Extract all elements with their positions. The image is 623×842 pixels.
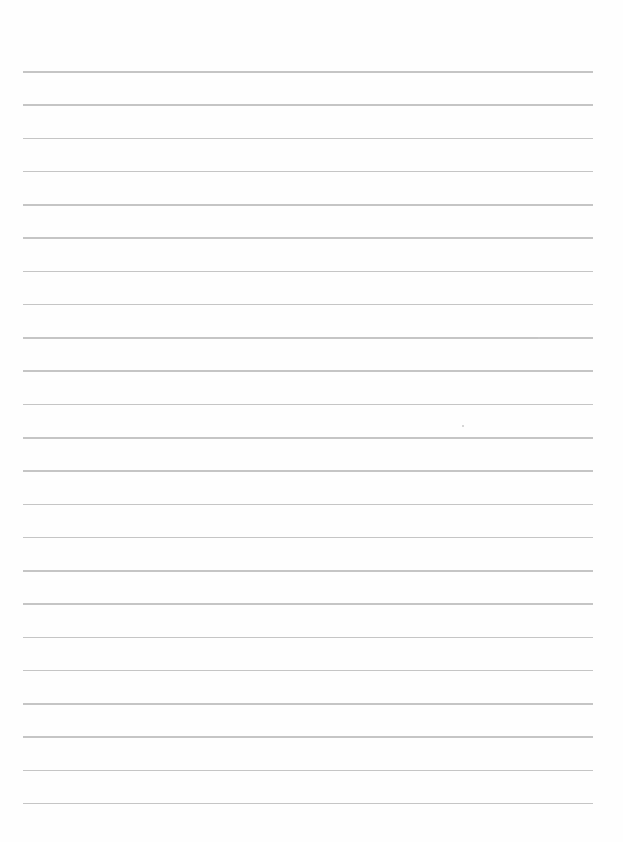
ruled-line: [23, 703, 593, 705]
ruled-line: [23, 271, 593, 273]
ruled-line: [23, 803, 593, 805]
ruled-line: [23, 670, 593, 672]
ruled-line: [23, 104, 593, 106]
ruled-line: [23, 337, 593, 339]
ruled-line: [23, 437, 593, 439]
ruled-line: [23, 370, 593, 372]
ruled-line: [23, 537, 593, 539]
ruled-line: [23, 237, 593, 239]
paper-speck: [538, 337, 540, 339]
ruled-line: [23, 603, 593, 605]
ruled-line: [23, 304, 593, 306]
ruled-line: [23, 736, 593, 738]
ruled-line: [23, 637, 593, 639]
ruled-line: [23, 770, 593, 772]
lined-paper-page: [0, 0, 623, 842]
ruled-line: [23, 470, 593, 472]
ruled-line: [23, 504, 593, 506]
ruled-line: [23, 404, 593, 406]
ruled-line: [23, 171, 593, 173]
ruled-line: [23, 204, 593, 206]
ruled-line: [23, 138, 593, 140]
ruled-line: [23, 570, 593, 572]
ruled-line: [23, 71, 593, 73]
paper-speck: [462, 425, 464, 427]
